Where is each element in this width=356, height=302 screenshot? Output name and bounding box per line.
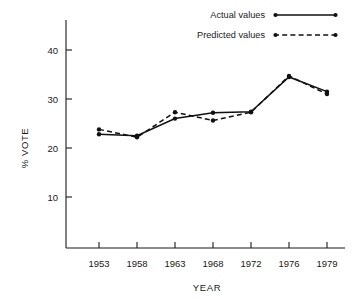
y-tick-label-30: 30 xyxy=(47,94,58,105)
y-tick-label-10: 10 xyxy=(47,192,58,203)
legend-label-predicted: Predicted values xyxy=(197,30,265,40)
chart-container: 40 30 20 10 % VOTE 1953 1958 1963 1968 1… xyxy=(0,0,356,302)
y-axis-title: % VOTE xyxy=(19,128,30,169)
x-tick-label-1972: 1972 xyxy=(240,258,261,269)
data-point-predicted-1958 xyxy=(135,135,139,139)
data-series-layer xyxy=(97,74,329,140)
chart-legend: Actual values Predicted values xyxy=(197,10,338,40)
legend-marker-predicted-start xyxy=(273,33,277,37)
data-point-predicted-1963 xyxy=(173,110,177,114)
legend-marker-predicted-end xyxy=(333,33,337,37)
x-axis-title: YEAR xyxy=(193,282,221,293)
legend-marker-actual-end xyxy=(333,13,337,17)
data-point-actual-1968 xyxy=(211,111,215,115)
x-tick-label-1979: 1979 xyxy=(316,258,337,269)
data-point-predicted-1976 xyxy=(287,74,291,78)
data-point-actual-1953 xyxy=(97,132,101,136)
series-line-predicted xyxy=(99,76,327,137)
data-point-predicted-1979 xyxy=(325,92,329,96)
x-tick-label-1958: 1958 xyxy=(126,258,147,269)
data-point-predicted-1972 xyxy=(249,110,253,114)
x-tick-label-1976: 1976 xyxy=(278,258,299,269)
data-point-predicted-1953 xyxy=(97,127,101,131)
x-axis-ticks xyxy=(99,242,327,248)
y-tick-label-20: 20 xyxy=(47,143,58,154)
x-tick-label-1963: 1963 xyxy=(164,258,185,269)
series-line-actual xyxy=(99,77,327,136)
line-chart: 40 30 20 10 % VOTE 1953 1958 1963 1968 1… xyxy=(0,0,356,302)
x-tick-label-1953: 1953 xyxy=(88,258,109,269)
data-point-predicted-1968 xyxy=(211,118,215,122)
data-point-actual-1963 xyxy=(173,116,177,120)
x-tick-label-1968: 1968 xyxy=(202,258,223,269)
legend-label-actual: Actual values xyxy=(210,10,265,20)
y-tick-label-40: 40 xyxy=(47,45,58,56)
y-axis-ticks xyxy=(66,50,72,197)
legend-marker-actual-start xyxy=(273,13,277,17)
